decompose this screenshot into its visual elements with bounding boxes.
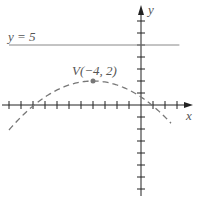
y-axis-arrow [138, 5, 144, 15]
directrix-label: y = 5 [6, 29, 36, 44]
vertex-label: V(−4, 2) [72, 63, 117, 78]
y-axis-label: y [146, 2, 154, 17]
parabola-chart: xyy = 5V(−4, 2) [0, 0, 197, 198]
vertex-point [91, 79, 96, 84]
x-axis-label: x [185, 108, 192, 123]
